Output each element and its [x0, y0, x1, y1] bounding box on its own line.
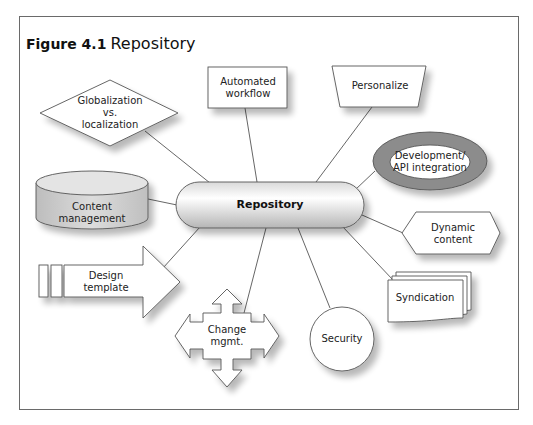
- syndication-label: Syndication: [396, 292, 455, 304]
- connector-development-api: [355, 171, 375, 190]
- label-line: Design: [83, 270, 128, 282]
- repository-label: Repository: [236, 199, 303, 211]
- connector-security: [298, 228, 330, 308]
- label-line: Security: [321, 333, 362, 345]
- label-line: Content: [59, 201, 126, 213]
- label-line: vs.: [77, 107, 142, 119]
- label-line: Globalization: [77, 95, 142, 107]
- design-template-label: Design template: [83, 270, 128, 294]
- security-label: Security: [321, 333, 362, 345]
- change-mgmt-label: Change mgmt.: [208, 324, 246, 348]
- label-line: management: [59, 213, 126, 225]
- globalization-label: Globalization vs. localization: [77, 95, 142, 131]
- connector-automated-workflow: [245, 108, 257, 182]
- label-line: mgmt.: [208, 336, 246, 348]
- label-line: template: [83, 282, 128, 294]
- personalize-label: Personalize: [352, 80, 409, 92]
- development-api-label: Development/ API integration: [393, 150, 467, 174]
- label-line: Personalize: [352, 80, 409, 92]
- connector-design-template: [163, 227, 200, 268]
- dynamic-content-label: Dynamic content: [431, 222, 475, 246]
- label-line: Automated: [220, 76, 276, 88]
- connector-syndication: [342, 226, 393, 280]
- connector-dynamic-content: [362, 215, 403, 233]
- connector-content-management: [148, 199, 177, 205]
- label-line: Dynamic: [431, 222, 475, 234]
- connector-change-mgmt: [244, 228, 266, 313]
- label-line: Change: [208, 324, 246, 336]
- label-line: workflow: [220, 88, 276, 100]
- connector-personalize: [316, 107, 372, 182]
- connector-globalization: [145, 131, 210, 183]
- content-management-label: Content management: [59, 201, 126, 225]
- label-line: localization: [77, 119, 142, 131]
- label-line: content: [431, 234, 475, 246]
- automated-workflow-label: Automated workflow: [220, 76, 276, 100]
- label-line: Development/: [393, 150, 467, 162]
- label-line: API integration: [393, 162, 467, 174]
- label-line: Syndication: [396, 292, 455, 304]
